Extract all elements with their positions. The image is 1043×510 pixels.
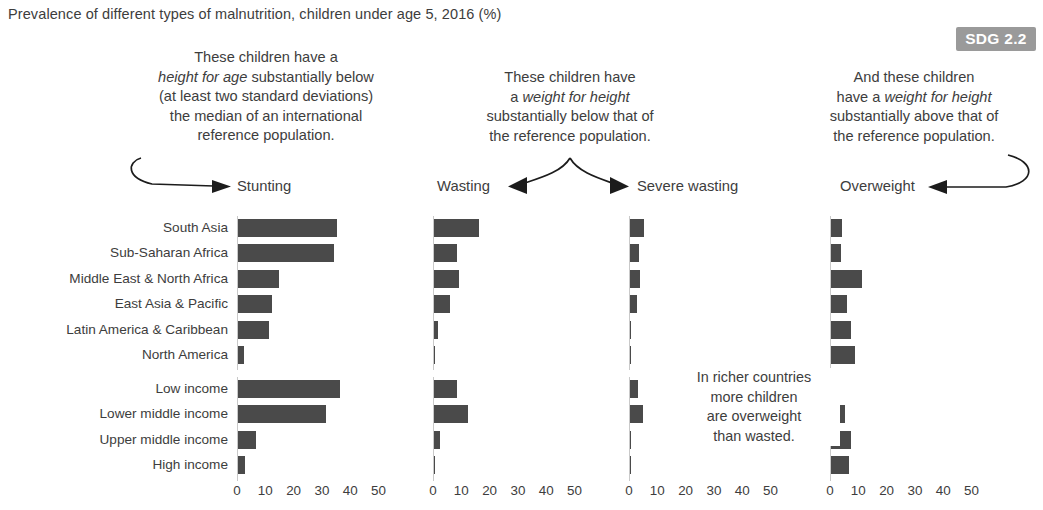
bar [831, 346, 855, 364]
bar [238, 219, 337, 237]
axis-tick-label: 10 [448, 483, 474, 498]
bar [434, 380, 457, 398]
annotation-wasting: These children have a weight for height … [440, 68, 700, 146]
axis-tick-label: 50 [366, 483, 392, 498]
bar [831, 219, 842, 237]
bar [238, 270, 279, 288]
annotation-overweight-line-1: have a weight for height [790, 88, 1038, 108]
axis-tick-label: 50 [562, 483, 588, 498]
bar [831, 270, 862, 288]
bar [434, 270, 459, 288]
arrow-severe-wasting-head [610, 177, 629, 194]
column-caption-overweight: Overweight [840, 178, 915, 194]
bar [630, 244, 639, 262]
arrow-overweight-path [942, 155, 1029, 187]
status-badge: SDG 2.2 [956, 27, 1036, 51]
annotation-overweight-line-3: the reference population. [790, 127, 1038, 147]
bar [831, 321, 851, 339]
axis-tick-label: 40 [930, 483, 956, 498]
panel-overweight: 01020304050 [0, 0, 196, 510]
axis-tick-label: 40 [533, 483, 559, 498]
bar [238, 295, 272, 313]
bar [238, 456, 245, 474]
annotation-richer-countries: In richer countries more children are ov… [668, 368, 840, 446]
bar [630, 321, 631, 339]
axis-tick-label: 20 [281, 483, 307, 498]
bar [238, 380, 340, 398]
arrow-wasting-left-head [508, 177, 527, 194]
bar [630, 456, 631, 474]
bar [238, 346, 244, 364]
arrow-wasting-left-path [522, 158, 570, 184]
annotation-overweight-line-0: And these children [790, 68, 1038, 88]
chart-figure: Prevalence of different types of malnutr… [0, 0, 1043, 510]
arrow-severe-wasting-path [570, 158, 615, 184]
bar [238, 431, 256, 449]
bar [831, 295, 847, 313]
annotation-wasting-line-3: the reference population. [440, 127, 700, 147]
annotation-wasting-line-2: substantially below that of [440, 107, 700, 127]
bar [831, 456, 849, 474]
arrow-overweight-head [928, 180, 947, 194]
column-caption-stunting: Stunting [237, 178, 291, 194]
axis-tick-label: 0 [616, 483, 642, 498]
sdg-badge-label: SDG 2.2 [965, 30, 1027, 48]
axis-tick-label: 30 [902, 483, 928, 498]
bar [630, 405, 643, 423]
bar [434, 405, 468, 423]
bar [434, 346, 435, 364]
bar [238, 244, 334, 262]
axis-tick-label: 0 [420, 483, 446, 498]
axis-tick-label: 20 [673, 483, 699, 498]
axis-tick-label: 0 [224, 483, 250, 498]
bar [630, 270, 640, 288]
axis-tick-label: 40 [337, 483, 363, 498]
bar [831, 244, 841, 262]
annotation-wasting-line-1: a weight for height [440, 88, 700, 108]
richer-note-line-2: are overweight [668, 407, 840, 427]
bar [630, 219, 644, 237]
annotation-overweight-line-2: substantially above that of [790, 107, 1038, 127]
richer-note-line-0: In richer countries [668, 368, 840, 388]
axis-tick-label: 30 [309, 483, 335, 498]
bar [630, 380, 638, 398]
bar [434, 321, 438, 339]
bar [434, 219, 479, 237]
axis-tick-label: 20 [874, 483, 900, 498]
bar [630, 346, 631, 364]
axis-tick-label: 20 [477, 483, 503, 498]
bar [434, 456, 435, 474]
axis-tick-label: 0 [817, 483, 843, 498]
bar [630, 431, 631, 449]
bar [434, 244, 457, 262]
bar [434, 431, 440, 449]
richer-note-line-3: than wasted. [668, 427, 840, 447]
column-caption-wasting: Wasting [437, 178, 490, 194]
column-caption-severe-wasting: Severe wasting [637, 178, 738, 194]
axis-tick-label: 40 [729, 483, 755, 498]
axis-tick-label: 10 [252, 483, 278, 498]
annotation-overweight: And these children have a weight for hei… [790, 68, 1038, 146]
axis-tick-label: 10 [845, 483, 871, 498]
richer-note-line-1: more children [668, 388, 840, 408]
axis-tick-label: 50 [758, 483, 784, 498]
bar [238, 321, 269, 339]
axis-tick-label: 10 [644, 483, 670, 498]
axis-tick-label: 30 [701, 483, 727, 498]
bar [238, 405, 326, 423]
bar [434, 295, 450, 313]
bar [630, 295, 637, 313]
axis-tick-label: 50 [959, 483, 985, 498]
axis-tick-label: 30 [505, 483, 531, 498]
annotation-wasting-line-0: These children have [440, 68, 700, 88]
